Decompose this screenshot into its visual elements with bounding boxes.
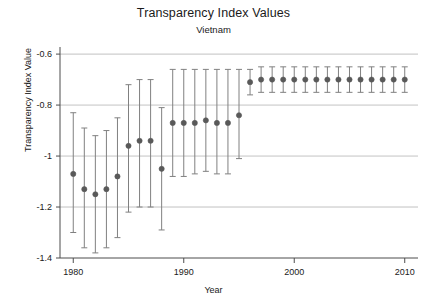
data-point — [346, 67, 352, 92]
x-tick-label: 2010 — [395, 267, 415, 277]
data-marker — [292, 77, 297, 82]
data-point — [380, 67, 386, 92]
data-marker — [347, 77, 352, 82]
data-marker — [236, 113, 241, 118]
data-point — [369, 67, 375, 92]
data-marker — [369, 77, 374, 82]
data-point — [324, 67, 330, 92]
data-point — [92, 136, 98, 253]
x-tick-label: 2000 — [284, 267, 304, 277]
data-point — [126, 85, 132, 212]
chart-plot-area: -0.6-0.8-1-1.2-1.4 1980199020002010 — [0, 0, 427, 307]
data-point — [358, 67, 364, 92]
data-marker — [115, 174, 120, 179]
data-point — [335, 67, 341, 92]
data-marker — [170, 120, 175, 125]
data-point — [291, 67, 297, 92]
data-point — [269, 67, 275, 92]
data-marker — [214, 120, 219, 125]
y-tick-label: -0.6 — [36, 49, 52, 59]
data-point — [391, 67, 397, 92]
data-marker — [225, 120, 230, 125]
x-axis-ticks: 1980199020002010 — [63, 258, 415, 277]
data-marker — [126, 143, 131, 148]
data-point — [137, 80, 143, 207]
data-point — [170, 69, 176, 176]
data-marker — [281, 77, 286, 82]
data-point — [192, 69, 198, 174]
data-marker — [358, 77, 363, 82]
data-point — [159, 108, 165, 230]
data-point — [81, 128, 87, 248]
chart-container: Transparency Index Values Vietnam Transp… — [0, 0, 427, 307]
data-series — [70, 67, 407, 253]
data-marker — [104, 187, 109, 192]
data-marker — [203, 118, 208, 123]
data-point — [258, 67, 264, 92]
data-marker — [159, 166, 164, 171]
data-marker — [71, 171, 76, 176]
data-point — [148, 80, 154, 207]
data-point — [236, 69, 242, 158]
data-marker — [270, 77, 275, 82]
data-point — [181, 69, 187, 176]
y-tick-label: -1 — [44, 151, 52, 161]
data-marker — [93, 192, 98, 197]
data-marker — [402, 77, 407, 82]
data-point — [247, 69, 253, 94]
y-tick-label: -1.2 — [36, 202, 52, 212]
data-marker — [247, 80, 252, 85]
x-tick-label: 1990 — [174, 267, 194, 277]
data-marker — [181, 120, 186, 125]
data-point — [114, 118, 120, 238]
data-point — [225, 69, 231, 174]
data-marker — [303, 77, 308, 82]
x-tick-label: 1980 — [63, 267, 83, 277]
data-marker — [336, 77, 341, 82]
data-marker — [82, 187, 87, 192]
data-point — [402, 67, 408, 92]
data-marker — [137, 138, 142, 143]
data-point — [214, 69, 220, 174]
data-marker — [391, 77, 396, 82]
y-tick-label: -1.4 — [36, 253, 52, 263]
data-point — [280, 67, 286, 92]
data-marker — [192, 120, 197, 125]
y-tick-label: -0.8 — [36, 100, 52, 110]
data-point — [313, 67, 319, 92]
data-marker — [325, 77, 330, 82]
data-point — [103, 131, 109, 248]
data-marker — [148, 138, 153, 143]
y-axis-ticks: -0.6-0.8-1-1.2-1.4 — [36, 49, 60, 263]
data-marker — [380, 77, 385, 82]
data-marker — [314, 77, 319, 82]
data-marker — [258, 77, 263, 82]
data-point — [70, 113, 76, 233]
data-point — [302, 67, 308, 92]
